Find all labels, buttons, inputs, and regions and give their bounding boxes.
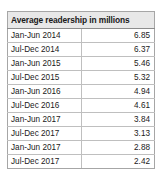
cell-readership-value: 2.42 — [81, 155, 155, 169]
cell-readership-value: 5.46 — [81, 57, 155, 71]
table-row: Jul-Dec 20146.37 — [8, 43, 155, 57]
cell-readership-value: 6.37 — [81, 43, 155, 57]
cell-period: Jul-Dec 2014 — [8, 43, 82, 57]
cell-readership-value: 6.85 — [81, 29, 155, 43]
table-body: Jan-Jun 20146.85Jul-Dec 20146.37Jan-Jun … — [8, 29, 155, 169]
cell-readership-value: 2.88 — [81, 141, 155, 155]
cell-period: Jan-Jun 2017 — [8, 141, 82, 155]
cell-period: Jul-Dec 2015 — [8, 71, 82, 85]
column-header-average-readership: Average readership in millions — [8, 12, 155, 29]
table-row: Jan-Jun 20164.94 — [8, 85, 155, 99]
cell-readership-value: 5.32 — [81, 71, 155, 85]
readership-table: Average readership in millions Jan-Jun 2… — [7, 11, 155, 169]
table-header-row: Average readership in millions — [8, 12, 155, 29]
cell-period: Jan-Jun 2015 — [8, 57, 82, 71]
readership-table-container: Average readership in millions Jan-Jun 2… — [7, 11, 155, 169]
table-head: Average readership in millions — [8, 12, 155, 29]
table-row: Jan-Jun 20155.46 — [8, 57, 155, 71]
cell-period: Jan-Jun 2017 — [8, 113, 82, 127]
table-row: Jan-Jun 20173.84 — [8, 113, 155, 127]
cell-period: Jan-Jun 2014 — [8, 29, 82, 43]
table-row: Jan-Jun 20146.85 — [8, 29, 155, 43]
table-row: Jul-Dec 20173.13 — [8, 127, 155, 141]
cell-period: Jan-Jun 2016 — [8, 85, 82, 99]
table-row: Jan-Jun 20172.88 — [8, 141, 155, 155]
table-row: Jul-Dec 20164.61 — [8, 99, 155, 113]
cell-readership-value: 3.84 — [81, 113, 155, 127]
table-row: Jul-Dec 20155.32 — [8, 71, 155, 85]
cell-period: Jul-Dec 2016 — [8, 99, 82, 113]
table-row: Jul-Dec 20172.42 — [8, 155, 155, 169]
cell-readership-value: 3.13 — [81, 127, 155, 141]
cell-period: Jul-Dec 2017 — [8, 127, 82, 141]
cell-readership-value: 4.61 — [81, 99, 155, 113]
cell-period: Jul-Dec 2017 — [8, 155, 82, 169]
cell-readership-value: 4.94 — [81, 85, 155, 99]
